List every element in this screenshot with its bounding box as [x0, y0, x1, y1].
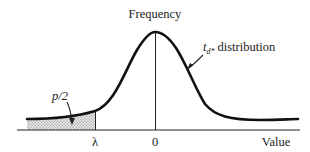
x-axis-label: Value: [262, 135, 291, 149]
curve-label-text: distribution: [217, 40, 275, 54]
curve-label: td*distribution: [203, 40, 276, 56]
shaded-area-label: p/2: [51, 89, 68, 103]
curve-label-sub: d*: [206, 47, 214, 56]
y-axis-label: Frequency: [129, 7, 183, 21]
t-distribution-diagram: Frequency Value λ 0 td*distribution p/2: [0, 0, 310, 152]
tick-lambda: λ: [92, 135, 98, 149]
tick-zero: 0: [152, 135, 158, 149]
curve-label-arrowhead-icon: [187, 63, 193, 70]
